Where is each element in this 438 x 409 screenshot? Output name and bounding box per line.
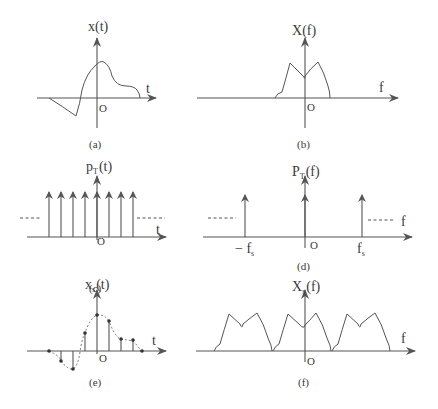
origin-label: O (307, 355, 315, 367)
x-axis-label: f (401, 331, 406, 346)
caption-e: (e) (89, 376, 102, 389)
svg-text:fs: fs (357, 241, 365, 258)
panel-a: x(t) t O (a) (37, 19, 156, 151)
caption-d: (d) (297, 260, 310, 273)
svg-text:X(f): X(f) (292, 23, 316, 39)
caption-a: (a) (89, 138, 102, 151)
envelope-curve (49, 315, 141, 369)
y-axis-label: x (88, 19, 95, 34)
sampling-figure: x(t) t O (a) X(f) f O (b) (0, 0, 438, 409)
y-axis-label: p (86, 159, 93, 174)
tick-neg-fs: − f (235, 241, 251, 256)
svg-text:Xs(f): Xs(f) (292, 279, 321, 296)
caption-f: (f) (298, 376, 309, 389)
panel-b: X(f) f O (b) (197, 23, 398, 151)
origin-label: O (99, 102, 107, 114)
x-axis-label: t (146, 81, 150, 96)
x-axis-label: t (152, 333, 156, 348)
y-axis-label: X (292, 279, 302, 294)
spectrum-replicas (214, 313, 390, 351)
svg-text:pT(t): pT(t) (86, 159, 112, 176)
y-axis-label: x (85, 277, 92, 292)
origin-label: O (97, 235, 105, 247)
signal-curve (49, 62, 140, 117)
origin-label: O (307, 101, 315, 113)
y-axis-label: X (292, 23, 302, 38)
x-axis-label: t (156, 222, 160, 237)
panel-d: PT(f) f O − fs fs (d) (203, 164, 412, 273)
panel-f: Xs(f) f O (f) (196, 279, 415, 389)
svg-text:PT(f): PT(f) (292, 164, 320, 181)
sample-points (47, 313, 144, 371)
panel-c: pT(t) t O (c) (20, 159, 166, 295)
x-axis-label: f (401, 214, 406, 229)
y-axis-label: P (292, 164, 300, 179)
svg-text:xs(t): xs(t) (85, 277, 110, 294)
origin-label: O (99, 352, 107, 364)
x-axis-label: f (379, 80, 384, 95)
caption-b: (b) (297, 138, 310, 151)
panel-e: xs(t) t O (e) (27, 277, 166, 389)
origin-label: O (310, 239, 318, 251)
spectrum-curve (275, 62, 330, 98)
impulse-train (49, 192, 133, 237)
svg-text:− fs: − fs (235, 241, 254, 258)
svg-text:x(t): x(t) (88, 19, 109, 35)
